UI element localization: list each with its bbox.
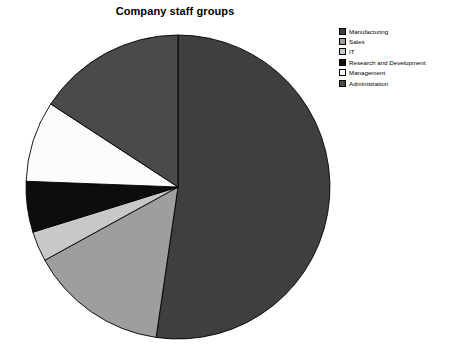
legend-item-label: Manufacturing: [349, 28, 388, 35]
pie-slice[interactable]: [156, 35, 330, 339]
legend-item[interactable]: Manufacturing: [339, 26, 465, 36]
legend-swatch-icon: [339, 48, 346, 55]
legend-swatch-icon: [339, 69, 346, 76]
legend-item[interactable]: Research and Development: [339, 57, 465, 67]
legend-item[interactable]: Sales: [339, 36, 465, 46]
legend-item-label: IT: [349, 48, 355, 55]
legend-item-label: Administration: [349, 80, 388, 87]
pie-plot-area: [0, 0, 360, 354]
legend-item[interactable]: Management: [339, 68, 465, 78]
legend-item-label: Research and Development: [349, 59, 426, 66]
legend-item-label: Management: [349, 69, 385, 76]
legend-item-label: Sales: [349, 38, 364, 45]
legend-item[interactable]: Administration: [339, 78, 465, 88]
pie-svg: [0, 0, 360, 354]
legend-swatch-icon: [339, 80, 346, 87]
pie-slice-group: [26, 35, 330, 339]
chart-legend: ManufacturingSalesITResearch and Develop…: [339, 26, 465, 88]
pie-chart-figure: Company staff groups ManufacturingSalesI…: [0, 0, 465, 354]
legend-swatch-icon: [339, 38, 346, 45]
legend-item[interactable]: IT: [339, 47, 465, 57]
legend-swatch-icon: [339, 28, 346, 35]
legend-swatch-icon: [339, 59, 346, 66]
